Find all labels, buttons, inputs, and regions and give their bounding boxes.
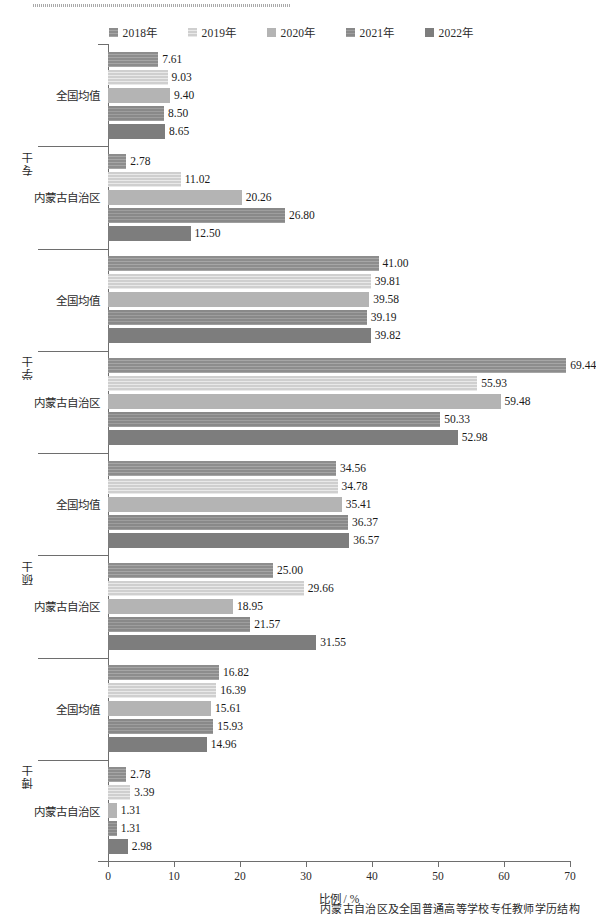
x-axis-tick-label: 60 — [498, 870, 510, 882]
y-axis-top-cap — [98, 44, 109, 45]
row-separator — [38, 760, 108, 761]
bar[interactable] — [108, 803, 117, 818]
group-separator — [38, 249, 108, 250]
bar[interactable] — [108, 785, 130, 800]
bar[interactable] — [108, 479, 338, 494]
legend-swatch-icon — [425, 28, 434, 37]
bar[interactable] — [108, 274, 371, 289]
bar[interactable] — [108, 683, 216, 698]
row-separator — [38, 146, 108, 147]
bar[interactable] — [108, 497, 342, 512]
bar-value-label: 34.56 — [336, 461, 366, 476]
bar[interactable] — [108, 208, 285, 223]
x-axis-tick — [306, 861, 307, 867]
bar[interactable] — [108, 737, 207, 752]
bar[interactable] — [108, 821, 117, 836]
x-axis-tick — [504, 861, 505, 867]
x-axis-line — [108, 861, 570, 862]
bar-value-label: 1.31 — [117, 821, 141, 836]
x-axis-tick — [372, 861, 373, 867]
x-axis-tick — [570, 861, 571, 867]
row-separator — [38, 351, 108, 352]
row-label: 内蒙古自治区 — [34, 394, 104, 410]
bar-value-label: 16.39 — [216, 683, 246, 698]
bar[interactable] — [108, 839, 128, 854]
x-axis-tick-label: 50 — [432, 870, 444, 882]
bar-value-label: 16.82 — [219, 665, 249, 680]
bar-value-label: 21.57 — [250, 617, 280, 632]
bar-value-label: 7.61 — [158, 52, 182, 67]
bar[interactable] — [108, 701, 211, 716]
row-label: 全国均值 — [34, 87, 104, 103]
x-axis-tick-label: 10 — [168, 870, 180, 882]
plot-area: 比例 / % 010203040506070专士全国均值7.619.039.40… — [20, 44, 570, 862]
bar[interactable] — [108, 124, 165, 139]
bar-value-label: 8.65 — [165, 124, 189, 139]
bar[interactable] — [108, 515, 348, 530]
bar[interactable] — [108, 226, 191, 241]
figure-caption: 内蒙古自治区及全国普通高等学校专任教师学历结构 — [0, 900, 582, 916]
bar-value-label: 9.40 — [170, 88, 194, 103]
bar-value-label: 59.48 — [501, 394, 531, 409]
bar-value-label: 18.95 — [233, 599, 263, 614]
bar[interactable] — [108, 376, 477, 391]
bar[interactable] — [108, 635, 316, 650]
bar-value-label: 36.57 — [349, 533, 379, 548]
bar-value-label: 25.00 — [273, 563, 303, 578]
legend-swatch-icon — [267, 28, 276, 37]
bar[interactable] — [108, 292, 369, 307]
bar[interactable] — [108, 256, 379, 271]
legend-item-2020年[interactable]: 2020年 — [267, 24, 316, 40]
bar[interactable] — [108, 599, 233, 614]
bar[interactable] — [108, 394, 501, 409]
bar[interactable] — [108, 172, 181, 187]
bar[interactable] — [108, 52, 158, 67]
legend-swatch-icon — [346, 28, 355, 37]
bar[interactable] — [108, 88, 170, 103]
bar[interactable] — [108, 412, 440, 427]
bar[interactable] — [108, 719, 213, 734]
legend-item-2021年[interactable]: 2021年 — [346, 24, 395, 40]
group-separator — [38, 658, 108, 659]
bar-value-label: 8.50 — [164, 106, 188, 121]
bar-value-label: 52.98 — [458, 430, 488, 445]
chart-legend: 2018年2019年2020年2021年2022年 — [0, 24, 582, 40]
legend-item-label: 2020年 — [281, 24, 316, 40]
bar-value-label: 2.78 — [126, 154, 150, 169]
row-label: 内蒙古自治区 — [34, 189, 104, 205]
bar[interactable] — [108, 767, 126, 782]
bar[interactable] — [108, 581, 304, 596]
bar-value-label: 29.66 — [304, 581, 334, 596]
bar-value-label: 14.96 — [207, 737, 237, 752]
bar[interactable] — [108, 328, 371, 343]
x-axis-tick-label: 20 — [234, 870, 246, 882]
bar[interactable] — [108, 461, 336, 476]
bar[interactable] — [108, 310, 367, 325]
bar[interactable] — [108, 358, 566, 373]
legend-item-2019年[interactable]: 2019年 — [188, 24, 237, 40]
bar-value-label: 34.78 — [338, 479, 368, 494]
bar[interactable] — [108, 70, 168, 85]
x-axis-tick-label: 70 — [564, 870, 576, 882]
bar[interactable] — [108, 430, 458, 445]
legend-item-2022年[interactable]: 2022年 — [425, 24, 474, 40]
bar[interactable] — [108, 190, 242, 205]
bar-value-label: 69.44 — [566, 358, 596, 373]
row-separator — [38, 555, 108, 556]
bar[interactable] — [108, 563, 273, 578]
row-label: 内蒙古自治区 — [34, 803, 104, 819]
bar[interactable] — [108, 617, 250, 632]
bar-value-label: 9.03 — [168, 70, 192, 85]
legend-item-2018年[interactable]: 2018年 — [109, 24, 158, 40]
x-axis-tick-label: 40 — [366, 870, 378, 882]
legend-item-label: 2022年 — [439, 24, 474, 40]
bar-value-label: 1.31 — [117, 803, 141, 818]
bar[interactable] — [108, 533, 349, 548]
bar[interactable] — [108, 154, 126, 169]
bar[interactable] — [108, 665, 219, 680]
bar[interactable] — [108, 106, 164, 121]
bar-value-label: 2.78 — [126, 767, 150, 782]
row-label: 全国均值 — [34, 496, 104, 512]
bar-value-label: 35.41 — [342, 497, 372, 512]
